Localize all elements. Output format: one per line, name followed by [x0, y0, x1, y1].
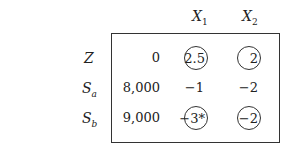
column-var: X	[242, 8, 252, 24]
row-label-sa: Sa	[82, 80, 97, 99]
cell-sb-x2-circled: −2	[237, 106, 261, 130]
cell-z-x2-circled: 2	[237, 46, 261, 70]
column-var: X	[192, 8, 202, 24]
row-sub: a	[92, 89, 97, 99]
cell-sa-x1: −1	[164, 80, 204, 95]
rhs-z: 0	[120, 50, 160, 65]
row-label-sb: Sb	[82, 110, 97, 129]
cell-z-x1-circled: 2.5	[184, 46, 208, 70]
row-var: S	[82, 80, 92, 96]
cell-sb-x1-pivot-circled: −3*	[184, 106, 208, 130]
column-sub: 1	[202, 17, 208, 27]
cell-sa-x2: −2	[218, 80, 258, 95]
column-header-x1: X1	[192, 8, 208, 27]
column-header-x2: X2	[242, 8, 258, 27]
row-var: Z	[84, 50, 94, 66]
column-sub: 2	[252, 17, 258, 27]
rhs-sb: 9,000	[120, 110, 160, 125]
rhs-sa: 8,000	[120, 80, 160, 95]
row-label-z: Z	[84, 50, 94, 66]
row-var: S	[82, 110, 92, 126]
row-sub: b	[92, 119, 98, 129]
